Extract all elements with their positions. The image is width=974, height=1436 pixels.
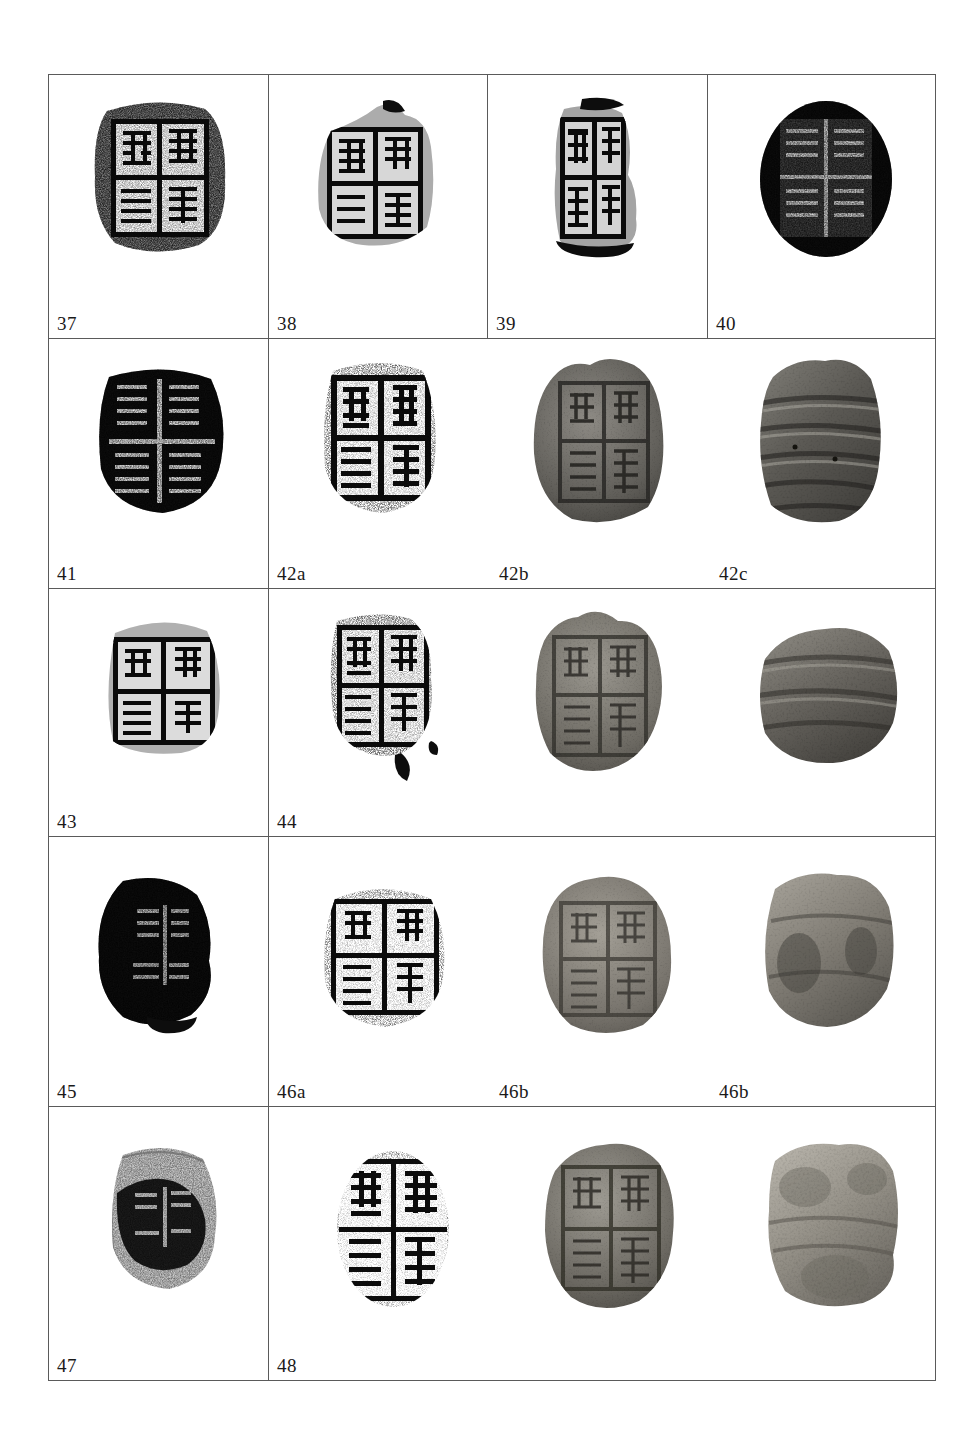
- figure-48-rubbing: [315, 1137, 470, 1322]
- figure-44-photo-front: [514, 603, 694, 788]
- figure-area: [488, 75, 707, 304]
- plate-cell-42-group[interactable]: 42a 42b 42c: [269, 339, 936, 589]
- figure-label: 40: [716, 314, 736, 333]
- plate-cell-48-group[interactable]: 48: [269, 1107, 936, 1381]
- figure-48-photo-back: [743, 1127, 923, 1327]
- figure-44-rubbing: [309, 603, 459, 788]
- figure-label: 46a: [277, 1082, 306, 1101]
- figure-label: 44: [277, 812, 297, 831]
- figure-37: [87, 93, 237, 263]
- figure-43: [85, 611, 240, 771]
- figure-41: [83, 355, 243, 525]
- table-row: 45: [49, 837, 936, 1107]
- figure-label: 46b: [499, 1082, 529, 1101]
- figure-42a: [305, 351, 455, 531]
- figure-label: 38: [277, 314, 297, 333]
- table-row: 47: [49, 1107, 936, 1381]
- table-row: 37: [49, 75, 936, 339]
- figure-area: [49, 589, 268, 802]
- figure-area: [269, 339, 935, 554]
- table-row: 41: [49, 339, 936, 589]
- plate-cell-44-group[interactable]: 44: [269, 589, 936, 837]
- figure-area: [269, 1107, 935, 1346]
- figure-40: [746, 89, 906, 269]
- plate-cell-46-group[interactable]: 46a 46b 46b: [269, 837, 936, 1107]
- figure-label: 43: [57, 812, 77, 831]
- figure-39: [530, 95, 660, 265]
- figure-label: 46b: [719, 1082, 749, 1101]
- figure-42c: [735, 347, 910, 537]
- figure-area: [49, 75, 268, 304]
- figure-46a: [305, 869, 465, 1044]
- plate-cell-37[interactable]: 37: [49, 75, 269, 339]
- figure-label: 48: [277, 1356, 297, 1375]
- figure-47: [87, 1133, 247, 1313]
- figure-46b-front: [519, 865, 699, 1045]
- figure-area: [49, 837, 268, 1072]
- figure-44-photo-back: [739, 613, 919, 783]
- figure-area: [49, 1107, 268, 1346]
- plate-cell-40[interactable]: 40: [708, 75, 936, 339]
- plate-cell-38[interactable]: 38: [269, 75, 488, 339]
- running-head: [56, 0, 356, 12]
- figure-42b: [516, 349, 691, 534]
- figure-area: [708, 75, 935, 304]
- plate-table: 37: [48, 74, 936, 1381]
- figure-area: [269, 837, 935, 1072]
- figure-area: [269, 589, 935, 802]
- plate-cell-47[interactable]: 47: [49, 1107, 269, 1381]
- figure-label: 45: [57, 1082, 77, 1101]
- figure-label: 47: [57, 1356, 77, 1375]
- figure-area: [49, 339, 268, 554]
- figure-label: 42b: [499, 564, 529, 583]
- figure-label: 37: [57, 314, 77, 333]
- figure-label: 39: [496, 314, 516, 333]
- figure-label: 42a: [277, 564, 306, 583]
- figure-46b-back: [741, 859, 921, 1044]
- plate-cell-43[interactable]: 43: [49, 589, 269, 837]
- figure-45: [71, 865, 246, 1045]
- figure-label: 41: [57, 564, 77, 583]
- figure-label: 42c: [719, 564, 748, 583]
- figure-area: [269, 75, 487, 304]
- plate-cell-45[interactable]: 45: [49, 837, 269, 1107]
- table-row: 43: [49, 589, 936, 837]
- figure-48-photo-front: [521, 1133, 701, 1323]
- figure-38: [301, 97, 451, 262]
- plate-cell-41[interactable]: 41: [49, 339, 269, 589]
- plate-cell-39[interactable]: 39: [488, 75, 708, 339]
